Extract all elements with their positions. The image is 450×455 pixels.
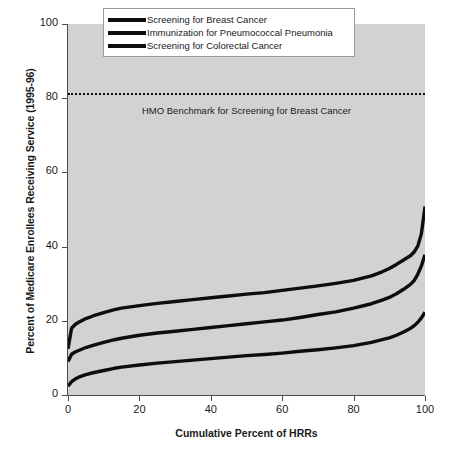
x-tick-label: 100 [405,403,445,415]
legend-label: Screening for Colorectal Cancer [146,39,282,52]
x-tick-mark [139,396,140,401]
chart-figure: Percent of Medicare Enrollees Receiving … [0,0,450,455]
x-tick-label: 80 [334,403,374,415]
legend-swatch-icon [108,31,146,35]
y-tick-mark [62,395,67,396]
x-tick-mark [68,396,69,401]
x-tick-mark [354,396,355,401]
x-tick-label: 20 [119,403,159,415]
hmo-benchmark-label: HMO Benchmark for Screening for Breast C… [68,105,425,116]
x-tick-mark [211,396,212,401]
y-tick-mark [62,98,67,99]
x-tick-label: 0 [48,403,88,415]
y-tick-label: 0 [18,387,58,399]
y-tick-label: 100 [18,16,58,28]
legend-swatch-icon [108,18,146,22]
legend-item-colorectal: Screening for Colorectal Cancer [108,39,350,52]
legend-item-breast-cancer: Screening for Breast Cancer [108,13,350,26]
chart-legend: Screening for Breast Cancer Immunization… [103,8,355,57]
x-tick-mark [282,396,283,401]
legend-item-pneumococcal: Immunization for Pneumococcal Pneumonia [108,26,350,39]
y-tick-label: 40 [18,239,58,251]
hmo-benchmark-line [68,93,425,95]
y-tick-label: 80 [18,90,58,102]
x-tick-mark [425,396,426,401]
y-tick-label: 20 [18,313,58,325]
x-axis-line [67,395,425,396]
y-tick-mark [62,321,67,322]
y-tick-mark [62,172,67,173]
y-tick-label: 60 [18,164,58,176]
x-tick-label: 60 [262,403,302,415]
y-tick-mark [62,247,67,248]
legend-label: Immunization for Pneumococcal Pneumonia [146,26,333,39]
series-lines [68,24,425,395]
x-axis-title: Cumulative Percent of HRRs [68,427,425,439]
x-tick-label: 40 [191,403,231,415]
plot-area: HMO Benchmark for Screening for Breast C… [68,24,425,395]
series-line-breast-cancer [68,207,425,349]
y-axis-title: Percent of Medicare Enrollees Receiving … [24,21,36,401]
legend-label: Screening for Breast Cancer [146,13,267,26]
legend-swatch-icon [108,44,146,48]
y-tick-mark [62,24,67,25]
